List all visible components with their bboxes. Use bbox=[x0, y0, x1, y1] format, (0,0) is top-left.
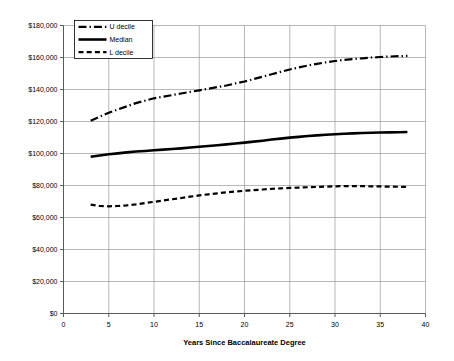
income-percentile-line-chart: $0$20,000$40,000$60,000$80,000$100,000$1… bbox=[0, 0, 454, 361]
legend-label-u-decile: U decile bbox=[110, 23, 135, 30]
y-axis-tick-label: $40,000 bbox=[32, 246, 57, 253]
y-axis-tick-label: $140,000 bbox=[28, 86, 57, 93]
chart-legend: U decileMedianL decile bbox=[75, 21, 153, 59]
chart-background bbox=[0, 0, 454, 361]
x-axis-tick-label: 5 bbox=[107, 321, 111, 328]
chart-container: $0$20,000$40,000$60,000$80,000$100,000$1… bbox=[0, 0, 454, 361]
y-axis-tick-label: $60,000 bbox=[32, 214, 57, 221]
y-axis-tick-label: $80,000 bbox=[32, 182, 57, 189]
y-axis-tick-label: $180,000 bbox=[28, 22, 57, 29]
legend-label-l-decile: L decile bbox=[110, 49, 134, 56]
y-axis-tick-label: $20,000 bbox=[32, 278, 57, 285]
x-axis-tick-label: 0 bbox=[62, 321, 66, 328]
y-axis-tick-label: $100,000 bbox=[28, 150, 57, 157]
legend-label-median: Median bbox=[110, 36, 133, 43]
y-axis-tick-label: $160,000 bbox=[28, 54, 57, 61]
x-axis-tick-label: 25 bbox=[286, 321, 294, 328]
y-axis-tick-label: $120,000 bbox=[28, 118, 57, 125]
y-axis-tick-label: $0 bbox=[50, 310, 58, 317]
x-axis-tick-label: 15 bbox=[195, 321, 203, 328]
x-axis-tick-label: 35 bbox=[376, 321, 384, 328]
x-axis-tick-label: 10 bbox=[150, 321, 158, 328]
x-axis-tick-label: 30 bbox=[331, 321, 339, 328]
x-axis-tick-label: 40 bbox=[422, 321, 430, 328]
x-axis-title: Years Since Baccalaureate Degree bbox=[183, 338, 306, 347]
x-axis-tick-label: 20 bbox=[241, 321, 249, 328]
